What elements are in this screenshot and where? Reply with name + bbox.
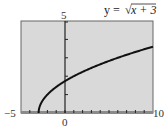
x-min-label: −5 xyxy=(4,107,16,119)
svg-text:x + 3: x + 3 xyxy=(130,3,156,17)
y-max-label: 5 xyxy=(61,9,67,21)
equation-title: y = √ x + 3 xyxy=(104,3,156,17)
x-axis-band xyxy=(21,111,153,114)
x-max-label: 10 xyxy=(153,107,165,119)
plot-area xyxy=(21,21,153,113)
function-graph: 5 −5 10 0 y = √ x + 3 xyxy=(0,0,167,131)
svg-text:y =: y = xyxy=(104,3,120,17)
origin-label: 0 xyxy=(62,116,68,128)
